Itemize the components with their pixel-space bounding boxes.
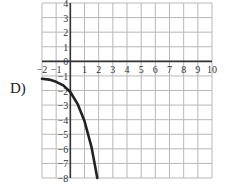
y-tick-label: −1: [58, 71, 69, 82]
x-tick-label: 3: [110, 64, 115, 75]
y-tick-label: 1: [63, 42, 68, 53]
x-tick-label: −2: [37, 64, 48, 75]
x-tick-label: 5: [139, 64, 144, 75]
y-tick-label: −7: [58, 158, 69, 169]
y-tick-label: 3: [63, 13, 68, 24]
x-tick-label: 10: [207, 64, 217, 75]
y-tick-label: 4: [63, 0, 68, 9]
x-tick-label: 1: [82, 64, 87, 75]
y-tick-label: −8: [58, 173, 69, 184]
y-tick-label: 2: [63, 27, 68, 38]
y-tick-label: 0: [63, 56, 68, 67]
x-tick-label: 4: [125, 64, 130, 75]
graph: −2−11234567891043210−1−2−3−4−5−6−7−8: [0, 0, 226, 187]
x-tick-label: 7: [167, 64, 172, 75]
x-tick-label: 9: [195, 64, 200, 75]
y-tick-label: −5: [58, 129, 69, 140]
x-tick-label: 6: [153, 64, 158, 75]
x-tick-label: 8: [181, 64, 186, 75]
y-tick-label: −6: [58, 144, 69, 155]
y-tick-label: −3: [58, 100, 69, 111]
x-tick-label: 2: [96, 64, 101, 75]
y-tick-label: −4: [58, 115, 69, 126]
